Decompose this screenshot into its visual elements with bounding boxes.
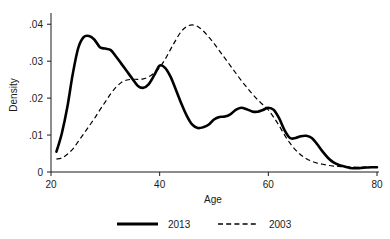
x-tick-label: 80 (371, 179, 383, 190)
x-axis-title: Age (204, 194, 222, 205)
y-tick-label: .04 (29, 19, 43, 30)
y-tick-label: 0 (37, 167, 43, 178)
legend-label-2013: 2013 (168, 219, 191, 230)
density-chart: .04.03.02.010 20406080 Age Density 2013 … (0, 0, 390, 239)
y-axis-ticks: .04.03.02.010 (29, 19, 51, 178)
x-tick-label: 60 (263, 179, 275, 190)
y-tick-label: .01 (29, 130, 43, 141)
chart-plot-area: .04.03.02.010 20406080 Age Density 2013 … (0, 0, 390, 239)
x-axis-ticks: 20406080 (45, 172, 383, 190)
series-line-2003 (56, 25, 377, 167)
x-tick-label: 40 (154, 179, 166, 190)
legend-label-2003: 2003 (269, 219, 292, 230)
chart-legend: 2013 2003 (117, 219, 292, 230)
y-axis-title: Density (8, 78, 19, 111)
y-tick-label: .02 (29, 93, 43, 104)
x-tick-label: 20 (45, 179, 57, 190)
y-tick-label: .03 (29, 56, 43, 67)
